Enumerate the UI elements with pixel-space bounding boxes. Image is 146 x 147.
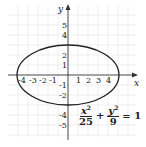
svg-text:3: 3 (96, 76, 101, 85)
y-fraction: y2 9 (107, 103, 119, 127)
svg-text:4: 4 (106, 76, 111, 85)
svg-text:4: 4 (62, 31, 67, 40)
svg-text:5: 5 (62, 21, 67, 30)
svg-text:-2: -2 (59, 91, 67, 100)
x-axis-label: x (134, 78, 139, 88)
y-axis-label: y (57, 4, 64, 14)
svg-text:-4: -4 (18, 76, 26, 85)
svg-text:-2: -2 (39, 76, 47, 85)
svg-text:1: 1 (62, 61, 67, 70)
svg-text:-3: -3 (29, 76, 37, 85)
svg-text:-4: -4 (59, 111, 67, 120)
svg-text:-1: -1 (49, 76, 57, 85)
x-fraction: x2 25 (79, 103, 93, 127)
ellipse-equation: x2 25 + y2 9 = 1 (79, 103, 141, 127)
svg-text:1: 1 (76, 76, 81, 85)
svg-text:-5: -5 (59, 121, 67, 130)
x-axis-arrow-icon (132, 73, 138, 78)
svg-text:2: 2 (62, 51, 67, 60)
y-axis-arrow-icon (66, 4, 71, 10)
svg-text:2: 2 (86, 76, 91, 85)
y-tick-labels: 5 4 2 1 -1 -2 -4 -5 (59, 21, 67, 130)
svg-text:-1: -1 (59, 81, 67, 90)
